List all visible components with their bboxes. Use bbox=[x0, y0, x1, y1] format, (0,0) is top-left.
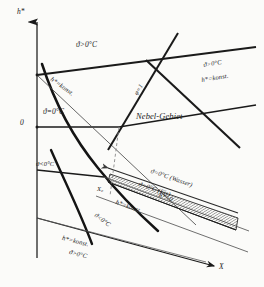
label-theta-lt-0-left: ϑ<0°C bbox=[36, 161, 54, 168]
isotherm-theta-lt-0 bbox=[37, 170, 104, 177]
diagram-canvas bbox=[0, 0, 264, 287]
label-nebel-gebiet: Nebel-Gebiet bbox=[136, 112, 183, 121]
label-theta-eq-0: ϑ=0°C bbox=[43, 108, 64, 116]
isenthalp-right-pair bbox=[119, 60, 256, 148]
y-axis-label: h* bbox=[17, 8, 25, 16]
x-axis-label: X bbox=[219, 263, 224, 271]
saturation-curve-lower bbox=[51, 150, 92, 244]
x0-label: X₀ bbox=[97, 186, 103, 193]
label-theta-gt-0-top: ϑ>0°C bbox=[76, 41, 97, 49]
origin-label: 0 bbox=[20, 119, 24, 127]
mollier-hx-diagram: h* 0 X X₀ ϑ>0°C h*=konst. ϑ=0°C φ=1 ϑ>0°… bbox=[0, 0, 264, 287]
